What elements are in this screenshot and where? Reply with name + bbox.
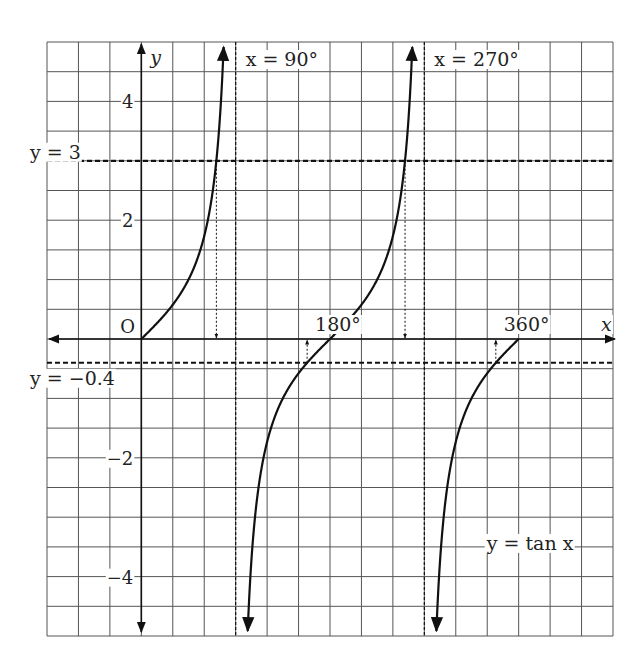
x-tick-label: 360° <box>504 313 550 335</box>
asymptote-label: x = 270° <box>434 48 518 70</box>
reference-label-y3: y = 3 <box>29 141 81 163</box>
y-tick-label: −4 <box>107 567 134 588</box>
y-tick-label: 4 <box>122 91 133 112</box>
reference-label-yneg04: y = −0.4 <box>29 367 115 389</box>
x-tick-label: 180° <box>315 313 361 335</box>
tan-curve-branch <box>141 47 223 339</box>
origin-label: O <box>120 316 135 337</box>
y-axis-label: y <box>149 46 161 68</box>
function-label: y = tan x <box>486 532 574 554</box>
labels: yxO42−2−4180°360°x = 90°x = 270°y = 3y =… <box>28 46 613 588</box>
y-tick-label: −2 <box>107 448 134 469</box>
tan-graph: yxO42−2−4180°360°x = 90°x = 270°y = 3y =… <box>0 0 640 666</box>
tan-curve-branch <box>436 339 518 631</box>
y-tick-label: 2 <box>122 210 133 231</box>
x-axis-label: x <box>601 313 612 335</box>
asymptote-label: x = 90° <box>246 48 318 70</box>
